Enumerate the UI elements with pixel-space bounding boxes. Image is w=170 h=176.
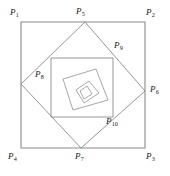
vertex-label-p7-sub: 7: [81, 155, 84, 162]
vertex-label-p2: P2: [146, 8, 155, 17]
vertex-label-p9-base: P: [114, 40, 120, 50]
vertex-label-p3: P3: [146, 152, 155, 161]
vertex-label-p3-sub: 3: [152, 155, 155, 162]
vertex-label-p9: P9: [114, 41, 123, 50]
vertex-label-p6-base: P: [150, 84, 156, 94]
vertex-label-p5-sub: 5: [82, 10, 85, 17]
vertex-label-p9-sub: 9: [120, 44, 123, 51]
geometry-figure: P1 P2 P3 P4 P5 P6 P7 P8 P9 P10: [0, 0, 170, 176]
vertex-label-p10-base: P: [106, 116, 112, 126]
vertex-label-p2-base: P: [146, 7, 152, 17]
vertex-label-p6: P6: [150, 85, 159, 94]
vertex-label-p10-sub: 10: [112, 120, 118, 127]
vertex-label-p5-base: P: [76, 6, 82, 16]
vertex-label-p1-sub: 1: [16, 11, 19, 18]
vertex-label-p4: P4: [8, 152, 17, 161]
polygon-square-5: [76, 81, 99, 103]
vertex-label-p7-base: P: [75, 151, 81, 161]
vertex-label-p5: P5: [76, 7, 85, 16]
polygon-square-4: [63, 69, 108, 110]
vertex-label-p8: P8: [35, 70, 44, 79]
vertex-label-p8-base: P: [35, 69, 41, 79]
polygon-square-6: [80, 86, 92, 99]
vertex-label-p4-base: P: [8, 151, 14, 161]
vertex-label-p2-sub: 2: [152, 11, 155, 18]
vertex-label-p7: P7: [75, 152, 84, 161]
vertex-label-p1: P1: [10, 8, 19, 17]
vertex-label-p1-base: P: [10, 7, 16, 17]
nested-squares-diagram: [0, 0, 170, 176]
vertex-label-p3-base: P: [146, 151, 152, 161]
polygon-square-3: [51, 58, 113, 117]
vertex-label-p8-sub: 8: [41, 73, 44, 80]
vertex-label-p6-sub: 6: [156, 88, 159, 95]
vertex-label-p4-sub: 4: [14, 155, 17, 162]
vertex-label-p10: P10: [106, 117, 118, 126]
